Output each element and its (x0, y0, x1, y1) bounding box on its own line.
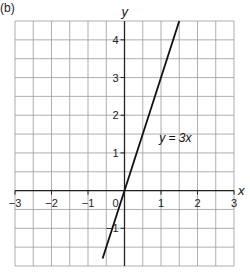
y-tick-label: 1 (112, 147, 118, 159)
x-tick-label: 2 (194, 197, 200, 209)
axes (15, 21, 234, 266)
y-axis-label: y (121, 4, 130, 19)
x-tick-label: −1 (82, 197, 95, 209)
x-tick-label: −2 (45, 197, 58, 209)
x-tick-label: 3 (231, 197, 237, 209)
line-equation-label: y = 3x (158, 131, 192, 145)
panel-label: (b) (0, 1, 15, 15)
y-tick-label: 2 (112, 109, 118, 121)
line-chart: (b) −3−2−10123−11234 x y y = 3x (0, 0, 250, 277)
x-tick-label: 1 (158, 197, 164, 209)
y-tick-label: 4 (112, 34, 118, 46)
x-axis-label: x (237, 183, 245, 198)
x-tick-label: 0 (112, 197, 118, 209)
y-tick-label: 3 (112, 72, 118, 84)
x-tick-label: −3 (9, 197, 22, 209)
